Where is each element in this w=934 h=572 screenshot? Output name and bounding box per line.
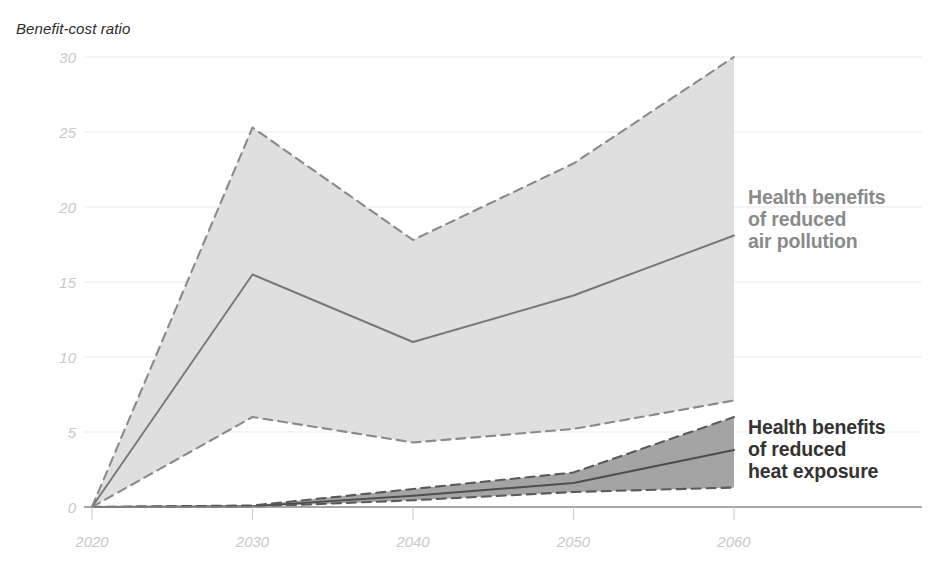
chart-svg: 051015202530 20202030204020502060 (0, 0, 934, 572)
x-tick-label: 2060 (716, 533, 751, 550)
x-tick-label: 2040 (395, 533, 430, 550)
x-axis-tick-labels: 20202030204020502060 (74, 533, 751, 550)
area-bands (92, 57, 734, 507)
air-pollution-band (92, 57, 734, 507)
x-tick-label: 2020 (74, 533, 109, 550)
y-tick-label: 20 (58, 199, 76, 216)
y-tick-label: 30 (59, 49, 76, 66)
y-axis-tick-labels: 051015202530 (58, 49, 76, 516)
x-tick-label: 2050 (556, 533, 591, 550)
y-tick-label: 10 (59, 349, 76, 366)
y-tick-label: 25 (58, 124, 76, 141)
annotation-air-pollution: Health benefits of reduced air pollution (748, 186, 886, 252)
x-tick-label: 2030 (235, 533, 270, 550)
annotation-heat-exposure: Health benefits of reduced heat exposure (748, 416, 886, 482)
y-tick-label: 5 (68, 424, 77, 441)
y-tick-label: 0 (68, 499, 77, 516)
chart-container: Benefit-cost ratio 051015202530 20202030… (0, 0, 934, 572)
y-tick-label: 15 (59, 274, 76, 291)
x-axis-ticks (92, 507, 734, 520)
